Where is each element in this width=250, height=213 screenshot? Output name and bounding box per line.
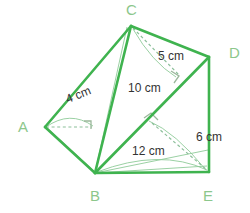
vertex-label-E: E (203, 188, 213, 203)
figure-canvas (0, 0, 250, 213)
right-angle-marks (84, 71, 179, 129)
vertex-label-C: C (126, 2, 137, 17)
edge-A-B (45, 127, 95, 173)
arc-near-A (46, 118, 93, 127)
measure-label-6cm: 6 cm (196, 131, 222, 143)
edge-B-E (95, 172, 209, 173)
geometry-figure: C D A B E 4 cm 5 cm 10 cm 6 cm 12 cm (0, 0, 250, 213)
measure-label-12cm: 12 cm (132, 145, 165, 157)
measure-label-5cm: 5 cm (158, 50, 184, 62)
vertex-label-A: A (18, 119, 28, 134)
vertex-label-D: D (229, 45, 240, 60)
measure-label-10cm: 10 cm (128, 82, 161, 94)
right-angle-at-CD-foot (171, 71, 179, 83)
vertex-label-B: B (90, 188, 100, 203)
